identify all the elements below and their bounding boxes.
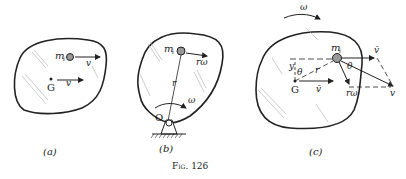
panel-b-velocity-label: rω — [196, 58, 208, 67]
panel-a-mass-velocity: v — [86, 59, 91, 68]
panel-a-center-velocity: v — [66, 79, 71, 88]
panel-b-caption: (b) — [159, 144, 173, 154]
panel-c-center-label: G — [291, 85, 299, 95]
panel-c-omega-label: ω — [300, 3, 307, 12]
panel-b-body — [138, 33, 223, 138]
panel-c-y-label: y — [289, 62, 294, 71]
panel-c-center-velocity: v̄ — [316, 85, 321, 94]
panel-c-vbar-top: v̄ — [374, 46, 379, 55]
panel-b-omega-label: ω — [188, 96, 195, 105]
panel-c-mass-subscript: i — [339, 48, 341, 54]
panel-c-theta-right: θ — [347, 62, 352, 71]
panel-c-resultant-label: v — [390, 89, 395, 98]
panel-c-theta-left: θ — [297, 68, 302, 77]
panel-a-caption: (a) — [43, 147, 57, 157]
panel-c-caption: (c) — [309, 147, 322, 157]
panel-c-r-omega-label: rω — [346, 89, 358, 98]
figure-caption: Fig. 126 — [172, 162, 208, 171]
panel-c-body — [256, 14, 393, 128]
panel-a-center-label: G — [47, 83, 55, 93]
panel-a-mass-subscript: i — [63, 56, 65, 62]
panel-c-radius-label: r — [315, 66, 319, 75]
panel-b-mass-subscript: i — [172, 49, 174, 55]
panel-b-pivot-label: O — [155, 113, 163, 123]
panel-b-radius-label: r — [172, 79, 176, 88]
